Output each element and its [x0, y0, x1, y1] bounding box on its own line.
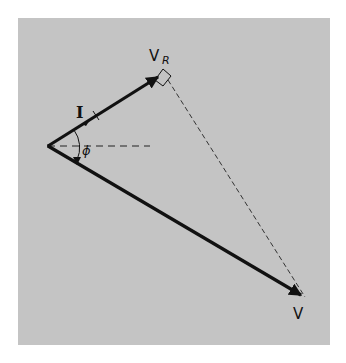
v-vector [48, 146, 301, 295]
current-label: I [76, 103, 83, 122]
origin-point [47, 144, 51, 148]
phasor-diagram: I ϕ V R V [0, 0, 346, 363]
phase-angle-arc [74, 130, 80, 160]
total-voltage-label: V [293, 305, 304, 323]
phase-angle-label: ϕ [82, 143, 91, 158]
resistor-voltage-subscript: R [162, 54, 170, 67]
resistor-voltage-label: V [149, 47, 160, 65]
vr-to-v-dashed-line [168, 80, 305, 297]
vr-vector [48, 77, 158, 146]
right-angle-marker [155, 69, 171, 86]
